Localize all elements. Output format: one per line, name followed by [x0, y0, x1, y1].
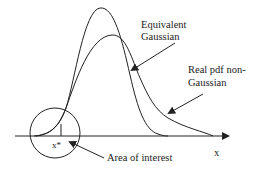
area-of-interest-pointer-arrow: [70, 142, 104, 158]
area-of-interest-label: Area of interest: [107, 152, 172, 163]
equivalent-gaussian-label-line2: Gaussian: [141, 31, 180, 42]
real-pdf-pointer-arrow: [169, 94, 203, 113]
real-pdf-label-line2: Gaussian: [188, 77, 227, 88]
x-axis-label: x: [214, 147, 219, 158]
equivalent-gaussian-pointer-arrow: [132, 43, 175, 70]
equivalent-gaussian-label-line1: Equivalent: [141, 19, 187, 30]
x-star-label: x*: [52, 140, 61, 151]
real-pdf-label-line1: Real pdf non-: [188, 64, 246, 75]
